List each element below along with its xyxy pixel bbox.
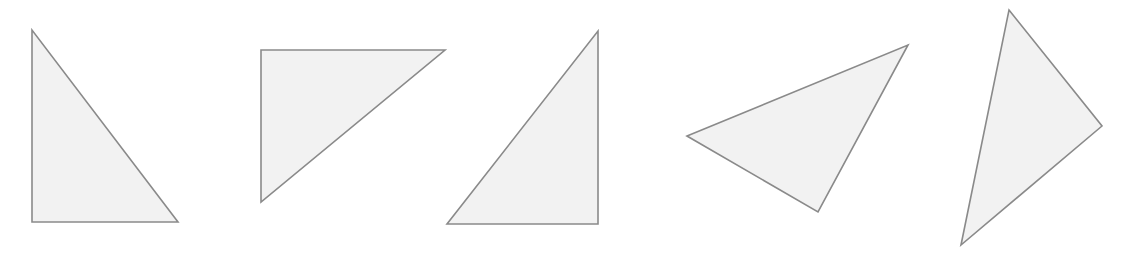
triangles-figure-canvas <box>0 0 1129 263</box>
triangles-svg <box>0 0 1129 263</box>
